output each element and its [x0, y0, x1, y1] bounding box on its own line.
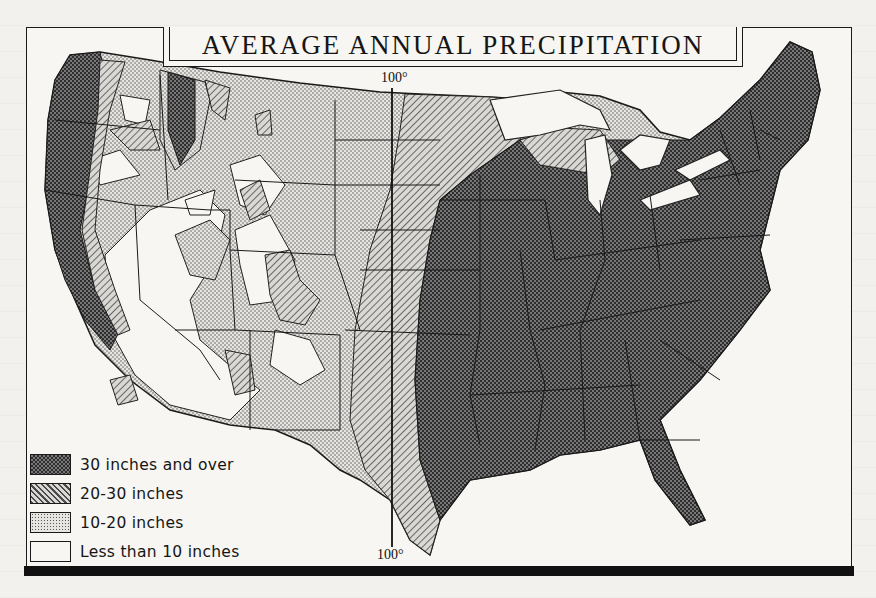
- legend-label: 20-30 inches: [80, 485, 184, 503]
- swatch-over-30: [30, 454, 71, 475]
- swatch-10-20: [30, 512, 71, 533]
- meridian-label-bottom: 100°: [377, 547, 404, 563]
- legend-label: 30 inches and over: [80, 456, 234, 474]
- legend-item: Less than 10 inches: [30, 537, 240, 566]
- swatch-under-10: [30, 541, 71, 562]
- bottom-rule: [24, 566, 854, 576]
- swatch-20-30: [30, 483, 71, 504]
- legend-label: 10-20 inches: [80, 514, 184, 532]
- legend-item: 20-30 inches: [30, 479, 240, 508]
- legend-item: 30 inches and over: [30, 450, 240, 479]
- map-title-box: AVERAGE ANNUAL PRECIPITATION: [163, 27, 743, 67]
- legend-label: Less than 10 inches: [80, 543, 240, 561]
- legend-item: 10-20 inches: [30, 508, 240, 537]
- map-title: AVERAGE ANNUAL PRECIPITATION: [202, 30, 704, 61]
- map-legend: 30 inches and over 20-30 inches 10-20 in…: [30, 450, 240, 566]
- meridian-label-top: 100°: [381, 70, 408, 86]
